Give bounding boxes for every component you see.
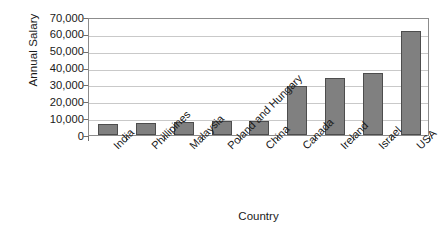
y-axis-tick-label: 50,000 bbox=[34, 46, 84, 57]
bar-slot bbox=[316, 19, 354, 135]
bar-slot bbox=[392, 19, 430, 135]
bar-slot bbox=[127, 19, 165, 135]
bar-slot bbox=[89, 19, 127, 135]
y-axis-tick-label: 30,000 bbox=[34, 80, 84, 91]
y-axis-tick-label: 10,000 bbox=[34, 114, 84, 125]
y-axis-tick-label: 40,000 bbox=[34, 63, 84, 74]
y-axis-tick-label: 20,000 bbox=[34, 97, 84, 108]
y-axis-tick-label: 0 bbox=[34, 131, 84, 142]
x-axis-tick-labels: IndiaPhillipinesMalaysiaPoland and Hunga… bbox=[88, 141, 429, 201]
y-axis-tick-label: 60,000 bbox=[34, 29, 84, 40]
x-axis-title: Country bbox=[88, 210, 429, 222]
bar-chart-figure: Annual Salary 010,00020,00030,00040,0005… bbox=[0, 0, 448, 244]
y-axis-tick-labels: 010,00020,00030,00040,00050,00060,00070,… bbox=[34, 18, 84, 136]
bar-slot bbox=[354, 19, 392, 135]
bar[interactable] bbox=[98, 124, 118, 135]
y-axis-tick-label: 70,000 bbox=[34, 13, 84, 24]
bar[interactable] bbox=[401, 31, 421, 136]
bar[interactable] bbox=[136, 123, 156, 135]
